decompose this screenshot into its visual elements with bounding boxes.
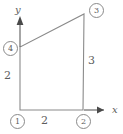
node-label-1: 1 xyxy=(10,114,25,129)
node-label-2-text: 2 xyxy=(81,118,86,126)
x-axis-label: x xyxy=(112,105,118,115)
arrow-right-icon xyxy=(97,107,104,114)
dimension-label-left: 2 xyxy=(4,70,11,81)
geometry-figure: 1 2 3 4 2 2 3 x y xyxy=(0,0,123,134)
arrow-up-icon xyxy=(17,16,24,25)
node-label-3: 3 xyxy=(89,3,104,18)
node-label-3-text: 3 xyxy=(94,7,99,15)
dimension-label-right: 3 xyxy=(88,55,95,66)
node-label-4-text: 4 xyxy=(8,45,13,53)
node-label-2: 2 xyxy=(76,114,91,129)
node-label-1-text: 1 xyxy=(15,118,20,126)
y-axis-label: y xyxy=(15,5,21,15)
dimension-label-bottom: 2 xyxy=(41,115,48,126)
node-label-4: 4 xyxy=(3,41,18,56)
quadrilateral-outline xyxy=(20,14,84,110)
